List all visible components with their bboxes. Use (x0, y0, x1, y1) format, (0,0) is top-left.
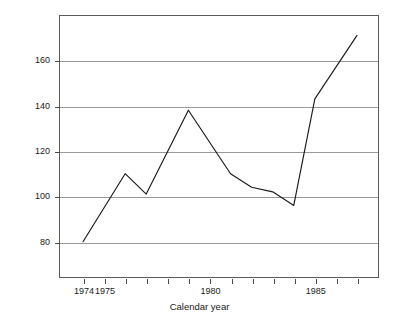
y-tick-mark-100 (55, 197, 60, 198)
y-tick-label-100: 100 (16, 192, 50, 201)
x-tick-mark-1978 (168, 279, 169, 284)
y-tick-label-140: 140 (16, 102, 50, 111)
x-tick-mark-1983 (274, 279, 275, 284)
x-tick-mark-1986 (337, 279, 338, 284)
x-tick-label-1974: 1974 (74, 287, 94, 296)
gridline-y-80 (60, 243, 378, 244)
x-tick-label-1985: 1985 (306, 287, 326, 296)
x-tick-mark-1982 (253, 279, 254, 284)
x-tick-mark-1987 (358, 279, 359, 284)
gridline-y-160 (60, 61, 378, 62)
y-tick-label-160: 160 (16, 56, 50, 65)
x-tick-mark-1974 (84, 279, 85, 284)
gridline-y-140 (60, 107, 378, 108)
x-axis-title: Calendar year (0, 301, 399, 312)
x-tick-label-1980: 1980 (200, 287, 220, 296)
x-tick-label-1975: 1975 (95, 287, 115, 296)
x-tick-mark-1984 (295, 279, 296, 284)
chart-figure: Market share index, 1974 = 100 801001201… (0, 0, 399, 333)
x-tick-mark-1975 (105, 279, 106, 284)
y-tick-label-120: 120 (16, 147, 50, 156)
plot-area: 80100120140160 1974197519801985 (59, 15, 379, 278)
y-tick-mark-80 (55, 243, 60, 244)
x-tick-mark-1976 (126, 279, 127, 284)
x-tick-mark-1977 (147, 279, 148, 284)
x-tick-mark-1985 (316, 279, 317, 284)
x-tick-mark-1980 (210, 279, 211, 284)
x-tick-mark-1981 (232, 279, 233, 284)
gridline-y-100 (60, 197, 378, 198)
y-tick-mark-120 (55, 152, 60, 153)
gridline-y-120 (60, 152, 378, 153)
x-tick-mark-1979 (189, 279, 190, 284)
y-tick-mark-160 (55, 61, 60, 62)
y-tick-mark-140 (55, 107, 60, 108)
y-tick-label-80: 80 (16, 238, 50, 247)
